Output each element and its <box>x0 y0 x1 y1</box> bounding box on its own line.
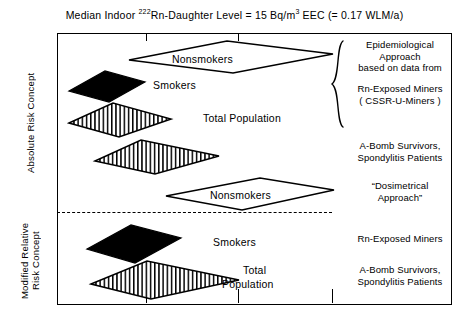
annotation-abomb-b-line1: A-Bomb Survivors, <box>348 264 452 276</box>
annotation-epi-line3: based on data from <box>348 62 452 74</box>
annotation-epidemiological-approach: Epidemiological Approach based on data f… <box>348 39 452 74</box>
title-mid: Rn-Daughter Level = 15 Bq/m <box>151 9 296 21</box>
figure-title: Median Indoor 222Rn-Daughter Level = 15 … <box>0 8 469 21</box>
group-label-modified-relative-risk-concept: Modified Relative Risk Concept <box>20 215 50 307</box>
diamond-smokers-modified-relative <box>87 225 181 263</box>
annotation-abomb-spondylitis-bottom: A-Bomb Survivors, Spondylitis Patients <box>348 264 452 287</box>
group-brace-epidemiological <box>330 40 346 128</box>
group-label-absolute-risk-concept: Absolute Risk Concept <box>26 33 42 213</box>
annotation-abomb-b-line2: Spondylitis Patients <box>348 276 452 288</box>
shape-label-nonsmokers-mid: Nonsmokers <box>210 189 271 201</box>
title-pre: Median Indoor <box>66 9 136 21</box>
axis-tick-top-2 <box>238 33 239 41</box>
group-separator-dashed-line <box>57 212 332 213</box>
figure-canvas: Median Indoor 222Rn-Daughter Level = 15 … <box>0 0 469 314</box>
annotation-dosi-line1: “Dosimetrical <box>348 180 452 192</box>
shape-label-total-population-bottom-line2: Population <box>222 278 274 290</box>
axis-tick-top-1 <box>146 33 147 41</box>
isotope-mass-number: 222 <box>139 8 151 15</box>
annotation-abomb-line2: Spondylitis Patients <box>348 152 452 164</box>
diamond-total-population-absolute-epidemiological <box>69 103 171 137</box>
shape-label-nonsmokers-top: Nonsmokers <box>172 53 233 65</box>
title-post: EEC (= 0.17 WLM/a) <box>299 9 403 21</box>
diamond-absolute-dosimetrical-abomb <box>95 140 219 174</box>
annotation-rn-exposed-miners-bottom: Rn-Exposed Miners <box>348 233 452 245</box>
annotation-rn-exposed-miners: Rn-Exposed Miners ( CSSR-U-Miners ) <box>348 83 452 106</box>
annotation-dosi-line2: Approach” <box>348 192 452 204</box>
annotation-abomb-spondylitis-top: A-Bomb Survivors, Spondylitis Patients <box>348 140 452 163</box>
diamond-total-population-modified-relative <box>91 261 239 299</box>
shape-label-total-population-top: Total Population <box>203 112 281 124</box>
shape-label-total-population-bottom-line1: Total <box>243 264 266 276</box>
annotation-abomb-line1: A-Bomb Survivors, <box>348 140 452 152</box>
shape-label-smokers-bottom: Smokers <box>213 236 256 248</box>
annotation-dosimetrical-approach: “Dosimetrical Approach” <box>348 180 452 203</box>
annotation-epi-line2: Approach <box>348 51 452 63</box>
diamond-smokers-absolute-epidemiological <box>69 71 145 102</box>
annotation-miners-line2: ( CSSR-U-Miners ) <box>348 95 452 107</box>
annotation-epi-line1: Epidemiological <box>348 39 452 51</box>
annotation-miners-bottom-line1: Rn-Exposed Miners <box>348 233 452 245</box>
shape-label-smokers-top: Smokers <box>153 79 196 91</box>
annotation-miners-line1: Rn-Exposed Miners <box>348 83 452 95</box>
axis-tick-bottom-3 <box>332 289 333 303</box>
